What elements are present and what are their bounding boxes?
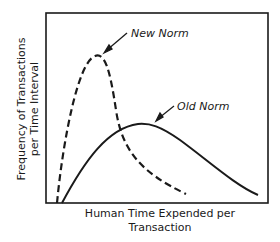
x-label-line1: Human Time Expended per [60,207,260,221]
x-label-line2: Transaction [60,221,260,235]
old-norm-label: Old Norm [177,100,229,113]
old-norm-curve [62,124,258,203]
arrow-old-norm [156,106,174,121]
arrow-new-norm [104,33,127,53]
new-norm-label: New Norm [131,27,189,40]
y-label-line1: Frequency of Transactions [15,29,28,189]
y-label-line2: per Time Interval [28,29,41,189]
y-axis-label: Frequency of Transactions per Time Inter… [15,29,41,189]
x-axis-label: Human Time Expended per Transaction [60,207,260,235]
